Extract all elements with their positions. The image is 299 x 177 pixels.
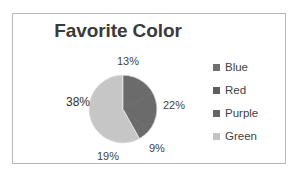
legend-swatch-green-icon	[213, 133, 220, 140]
legend-swatch-red-icon	[213, 87, 220, 94]
legend-label-blue: Blue	[225, 61, 248, 74]
legend-item-green[interactable]: Green	[213, 125, 285, 148]
legend-label-green: Green	[225, 130, 257, 143]
chart-legend: Blue Red Purple Green	[213, 56, 285, 148]
data-label-red: 22%	[163, 99, 185, 111]
data-label-purple: 9%	[149, 142, 165, 154]
legend-item-blue[interactable]: Blue	[213, 56, 285, 79]
legend-item-purple[interactable]: Purple	[213, 102, 285, 125]
data-label-green: 19%	[97, 150, 119, 162]
legend-label-red: Red	[225, 84, 246, 97]
legend-item-red[interactable]: Red	[213, 79, 285, 102]
legend-label-purple: Purple	[225, 107, 258, 120]
chart-card: Favorite Color 13% 22% 9% 19% 38% Blue	[12, 13, 286, 164]
legend-swatch-blue-icon	[213, 64, 220, 71]
data-label-light-slice: 38%	[66, 96, 90, 108]
pie-chart-svg	[87, 73, 159, 145]
legend-swatch-purple-icon	[213, 110, 220, 117]
data-label-blue: 13%	[117, 55, 139, 67]
chart-title: Favorite Color	[13, 20, 223, 42]
pie-chart	[87, 73, 159, 145]
pie-plot-area: 13% 22% 9% 19% 38%	[13, 44, 209, 165]
